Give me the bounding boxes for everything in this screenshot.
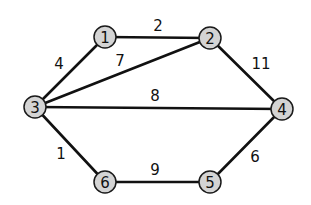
edge-1-2 (105, 37, 210, 38)
node-5: 5 (199, 171, 221, 193)
node-4: 4 (271, 98, 293, 120)
edge-weight-6-5: 9 (150, 161, 160, 179)
edge-weight-1-2: 2 (153, 17, 163, 35)
node-label: 2 (205, 30, 215, 48)
node-2: 2 (199, 27, 221, 49)
node-label: 4 (277, 101, 287, 119)
edge-3-6 (35, 107, 105, 182)
node-label: 1 (100, 29, 110, 47)
edge-4-5 (210, 109, 282, 182)
edge-weight-2-4: 11 (251, 55, 270, 73)
edge-weight-3-4: 8 (150, 87, 160, 105)
node-label: 5 (205, 174, 215, 192)
node-6: 6 (94, 171, 116, 193)
edge-2-4 (210, 38, 282, 109)
weighted-graph-diagram: 247118196 123456 (0, 0, 311, 205)
node-3: 3 (24, 96, 46, 118)
edge-weight-1-3: 4 (54, 55, 64, 73)
node-1: 1 (94, 26, 116, 48)
node-label: 6 (100, 174, 110, 192)
edge-weight-4-5: 6 (250, 148, 260, 166)
edge-3-4 (35, 107, 282, 109)
edge-1-3 (35, 37, 105, 107)
edge-weight-3-6: 1 (56, 145, 66, 163)
node-label: 3 (30, 99, 40, 117)
edge-weight-3-2: 7 (115, 52, 125, 70)
